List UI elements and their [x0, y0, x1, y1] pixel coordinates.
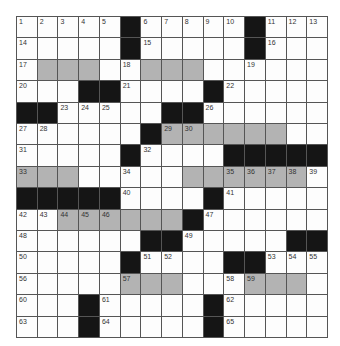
grid-cell[interactable]: [100, 252, 120, 272]
grid-cell[interactable]: [58, 252, 78, 272]
grid-cell[interactable]: [162, 188, 182, 208]
grid-cell[interactable]: [287, 124, 307, 144]
grid-cell[interactable]: 2: [38, 17, 58, 37]
grid-cell[interactable]: 64: [100, 317, 120, 337]
grid-cell[interactable]: [287, 210, 307, 230]
grid-cell[interactable]: [266, 231, 286, 251]
grid-cell[interactable]: [162, 81, 182, 101]
shaded-cell[interactable]: 46: [100, 210, 120, 230]
grid-cell[interactable]: 20: [17, 81, 37, 101]
grid-cell[interactable]: 26: [204, 103, 224, 123]
grid-cell[interactable]: 48: [17, 231, 37, 251]
shaded-cell[interactable]: [141, 210, 161, 230]
shaded-cell[interactable]: [266, 274, 286, 294]
grid-cell[interactable]: 24: [79, 103, 99, 123]
grid-cell[interactable]: [100, 231, 120, 251]
grid-cell[interactable]: 5: [100, 17, 120, 37]
grid-cell[interactable]: 39: [307, 167, 327, 187]
shaded-cell[interactable]: [204, 124, 224, 144]
grid-cell[interactable]: [79, 252, 99, 272]
grid-cell[interactable]: [245, 210, 265, 230]
grid-cell[interactable]: [266, 295, 286, 315]
grid-cell[interactable]: [121, 103, 141, 123]
grid-cell[interactable]: [38, 145, 58, 165]
shaded-cell[interactable]: [183, 60, 203, 80]
grid-cell[interactable]: [245, 317, 265, 337]
grid-cell[interactable]: [224, 103, 244, 123]
grid-cell[interactable]: [307, 124, 327, 144]
grid-cell[interactable]: [79, 167, 99, 187]
shaded-cell[interactable]: 30: [183, 124, 203, 144]
grid-cell[interactable]: [287, 188, 307, 208]
shaded-cell[interactable]: 57: [121, 274, 141, 294]
grid-cell[interactable]: [245, 231, 265, 251]
grid-cell[interactable]: [58, 295, 78, 315]
grid-cell[interactable]: [183, 274, 203, 294]
grid-cell[interactable]: [79, 124, 99, 144]
shaded-cell[interactable]: [162, 60, 182, 80]
shaded-cell[interactable]: [38, 167, 58, 187]
grid-cell[interactable]: [100, 145, 120, 165]
grid-cell[interactable]: 54: [287, 252, 307, 272]
grid-cell[interactable]: [224, 231, 244, 251]
grid-cell[interactable]: [121, 124, 141, 144]
shaded-cell[interactable]: [224, 124, 244, 144]
grid-cell[interactable]: [141, 295, 161, 315]
grid-cell[interactable]: [100, 38, 120, 58]
grid-cell[interactable]: 9: [204, 17, 224, 37]
grid-cell[interactable]: 50: [17, 252, 37, 272]
grid-cell[interactable]: [79, 145, 99, 165]
grid-cell[interactable]: 17: [17, 60, 37, 80]
grid-cell[interactable]: [287, 60, 307, 80]
grid-cell[interactable]: [307, 38, 327, 58]
grid-cell[interactable]: [307, 81, 327, 101]
grid-cell[interactable]: [162, 317, 182, 337]
grid-cell[interactable]: [307, 60, 327, 80]
grid-cell[interactable]: [141, 317, 161, 337]
shaded-cell[interactable]: [204, 167, 224, 187]
grid-cell[interactable]: 6: [141, 17, 161, 37]
shaded-cell[interactable]: [141, 60, 161, 80]
grid-cell[interactable]: 13: [307, 17, 327, 37]
grid-cell[interactable]: [307, 274, 327, 294]
grid-cell[interactable]: [121, 295, 141, 315]
grid-cell[interactable]: 65: [224, 317, 244, 337]
grid-cell[interactable]: [100, 60, 120, 80]
grid-cell[interactable]: [287, 81, 307, 101]
grid-cell[interactable]: [266, 103, 286, 123]
grid-cell[interactable]: [266, 317, 286, 337]
grid-cell[interactable]: 52: [162, 252, 182, 272]
grid-cell[interactable]: 18: [121, 60, 141, 80]
grid-cell[interactable]: [141, 167, 161, 187]
grid-cell[interactable]: [141, 188, 161, 208]
grid-cell[interactable]: [58, 317, 78, 337]
grid-cell[interactable]: 1: [17, 17, 37, 37]
grid-cell[interactable]: [204, 60, 224, 80]
grid-cell[interactable]: [162, 38, 182, 58]
grid-cell[interactable]: [287, 103, 307, 123]
grid-cell[interactable]: [58, 231, 78, 251]
shaded-cell[interactable]: 36: [245, 167, 265, 187]
grid-cell[interactable]: 15: [141, 38, 161, 58]
grid-cell[interactable]: [38, 295, 58, 315]
grid-cell[interactable]: [100, 274, 120, 294]
grid-cell[interactable]: [287, 295, 307, 315]
grid-cell[interactable]: [162, 295, 182, 315]
grid-cell[interactable]: 51: [141, 252, 161, 272]
grid-cell[interactable]: 10: [224, 17, 244, 37]
shaded-cell[interactable]: [121, 210, 141, 230]
shaded-cell[interactable]: [183, 167, 203, 187]
shaded-cell[interactable]: 38: [287, 167, 307, 187]
grid-cell[interactable]: [245, 103, 265, 123]
grid-cell[interactable]: 62: [224, 295, 244, 315]
grid-cell[interactable]: 21: [121, 81, 141, 101]
shaded-cell[interactable]: 44: [58, 210, 78, 230]
grid-cell[interactable]: [79, 38, 99, 58]
grid-cell[interactable]: [204, 231, 224, 251]
grid-cell[interactable]: 53: [266, 252, 286, 272]
grid-cell[interactable]: [79, 231, 99, 251]
grid-cell[interactable]: 3: [58, 17, 78, 37]
shaded-cell[interactable]: [245, 124, 265, 144]
grid-cell[interactable]: 31: [17, 145, 37, 165]
grid-cell[interactable]: [100, 124, 120, 144]
